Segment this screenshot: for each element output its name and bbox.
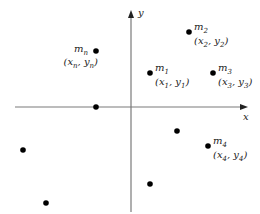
point-unlabeled-3	[20, 147, 26, 153]
mass-label-m3: m3	[218, 62, 232, 76]
point-m4	[205, 143, 211, 149]
coord-label-m3: (x3, y3)	[218, 76, 253, 90]
unlabeled-points	[20, 104, 180, 206]
point-unlabeled-1	[174, 128, 180, 134]
mass-label-m2: m2	[194, 21, 208, 35]
coord-label-m4: (x4, y4)	[213, 149, 248, 163]
point-unlabeled-4	[43, 200, 49, 206]
y-axis-label: y	[137, 7, 144, 18]
x-axis-arrow-icon	[240, 104, 248, 110]
y-axis-arrow-icon	[128, 10, 134, 18]
point-mn	[93, 48, 99, 54]
x-axis-label: x	[243, 111, 249, 122]
mass-distribution-diagram: x y m2(x2, y2)m1(x1, y1)m3(x3, y3)mn(xn,…	[0, 0, 260, 214]
point-unlabeled-0	[93, 104, 99, 110]
labeled-points: m2(x2, y2)m1(x1, y1)m3(x3, y3)mn(xn, yn)…	[64, 21, 253, 163]
mass-label-mn: mn	[74, 43, 88, 57]
point-m1	[147, 70, 153, 76]
coord-label-m1: (x1, y1)	[155, 76, 190, 90]
coord-label-m2: (x2, y2)	[194, 35, 229, 49]
mass-label-m1: m1	[155, 62, 169, 76]
point-unlabeled-2	[147, 181, 153, 187]
point-m2	[186, 29, 192, 35]
diagram-canvas: x y m2(x2, y2)m1(x1, y1)m3(x3, y3)mn(xn,…	[0, 0, 260, 214]
coord-label-mn: (xn, yn)	[64, 56, 99, 70]
mass-label-m4: m4	[213, 135, 227, 149]
point-m3	[210, 70, 216, 76]
